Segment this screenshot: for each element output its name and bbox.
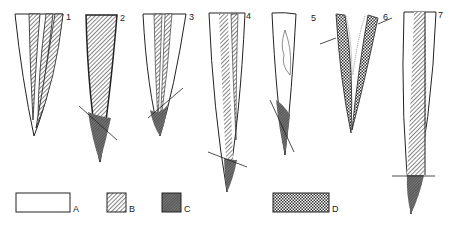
artifact-diagram: 1 2 3 4 5 6 (0, 0, 453, 226)
specimen-label: 5 (311, 13, 316, 23)
specimen-label: 1 (66, 12, 71, 22)
specimen-label: 2 (120, 13, 125, 23)
specimen-1: 1 (15, 12, 71, 136)
legend-item-a: A (16, 193, 79, 214)
legend-label: C (184, 204, 191, 214)
specimen-6: 6 (320, 12, 392, 133)
specimen-label: 4 (246, 11, 251, 21)
specimen-label: 7 (438, 10, 443, 20)
specimen-label: 6 (383, 12, 388, 22)
specimen-2: 2 (79, 13, 125, 162)
specimen-label: 3 (189, 12, 194, 22)
legend-item-c: C (162, 193, 191, 214)
specimen-7: 7 (392, 10, 443, 214)
legend-label: D (332, 204, 339, 214)
specimen-3: 3 (143, 12, 194, 136)
legend-label: A (73, 204, 79, 214)
specimen-5: 5 (270, 13, 316, 155)
legend-item-b: B (107, 193, 135, 214)
legend: A B C D (16, 193, 339, 214)
legend-label: B (129, 204, 135, 214)
specimen-4: 4 (208, 11, 251, 192)
legend-item-d: D (273, 193, 339, 214)
